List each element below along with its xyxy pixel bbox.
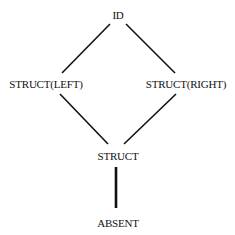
edge-id-struct-left (62, 24, 110, 73)
node-struct-left: STRUCT(LEFT) (9, 78, 82, 90)
node-absent: ABSENT (97, 217, 139, 229)
lattice-diagram (0, 0, 235, 235)
node-struct: STRUCT (98, 150, 139, 162)
edge-struct-left-struct (60, 94, 108, 144)
node-id: ID (112, 9, 123, 21)
edge-id-struct-right (126, 24, 175, 73)
edge-struct-right-struct (124, 94, 176, 144)
node-struct-right: STRUCT(RIGHT) (146, 78, 227, 90)
